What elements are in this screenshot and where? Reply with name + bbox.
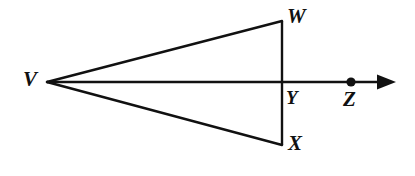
- geometry-figure: V W X Y Z: [0, 0, 415, 176]
- point-label-X: X: [288, 133, 302, 154]
- point-Z-dot: [346, 77, 355, 86]
- segment-VW: [47, 21, 282, 82]
- ray-arrowhead-icon: [377, 75, 396, 90]
- segment-VX: [47, 82, 282, 145]
- point-label-Y: Y: [286, 88, 298, 107]
- point-label-V: V: [23, 69, 37, 90]
- point-label-W: W: [287, 6, 306, 27]
- point-label-Z: Z: [343, 89, 356, 110]
